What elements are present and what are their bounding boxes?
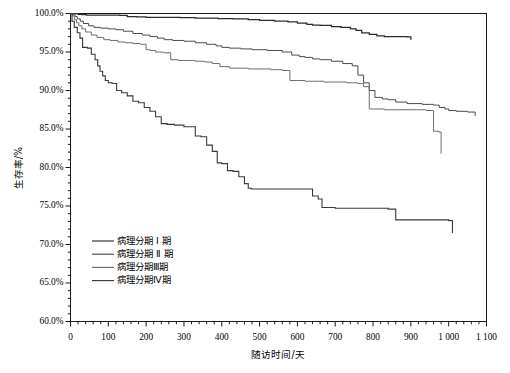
y-tick-label: 100.0%: [35, 8, 64, 18]
x-tick-label: 700: [328, 332, 342, 342]
y-axis-tick-labels: 60.0%65.0%70.0%75.0%80.0%85.0%90.0%95.0%…: [35, 8, 64, 326]
x-axis-major-ticks: [71, 322, 487, 327]
y-tick-label: 90.0%: [39, 85, 63, 95]
y-tick-label: 70.0%: [39, 239, 63, 249]
x-tick-label: 800: [366, 332, 380, 342]
kaplan-meier-chart: 60.0%65.0%70.0%75.0%80.0%85.0%90.0%95.0%…: [0, 0, 510, 373]
x-tick-label: 100: [101, 332, 115, 342]
survival-curve-figure: 60.0%65.0%70.0%75.0%80.0%85.0%90.0%95.0%…: [0, 0, 510, 373]
x-tick-label: 500: [253, 332, 267, 342]
x-tick-label: 1 000: [438, 332, 459, 342]
y-tick-label: 80.0%: [39, 162, 63, 172]
y-tick-label: 60.0%: [39, 316, 63, 326]
y-tick-label: 65.0%: [39, 277, 63, 287]
x-tick-label: 600: [290, 332, 304, 342]
x-axis-title: 随访时间/天: [251, 349, 304, 360]
legend-item-label: 病理分期 Ⅱ 期: [117, 248, 173, 259]
y-tick-label: 75.0%: [39, 200, 63, 210]
x-axis-tick-labels: 01002003004005006007008009001 0001 100: [68, 332, 497, 342]
x-tick-label: 1 100: [476, 332, 497, 342]
x-tick-label: 200: [139, 332, 153, 342]
x-tick-label: 300: [177, 332, 191, 342]
legend-item-label: 病理分期 Ⅰ 期: [117, 235, 171, 246]
y-tick-label: 85.0%: [39, 123, 63, 133]
legend-item-label: 病理分期Ⅳ期: [117, 274, 171, 285]
x-tick-label: 900: [404, 332, 418, 342]
y-tick-label: 95.0%: [39, 46, 63, 56]
y-axis-title: 生存率/%: [13, 147, 24, 189]
x-tick-label: 400: [215, 332, 229, 342]
legend-item-label: 病理分期Ⅲ期: [117, 261, 168, 272]
x-tick-label: 0: [68, 332, 73, 342]
